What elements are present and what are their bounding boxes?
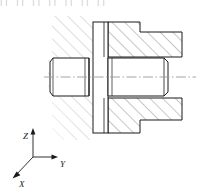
y-axis-arrowhead [52,155,59,160]
plate-body [93,22,108,133]
sectional-drawing: Z Y X [0,0,200,192]
right-housing-upper-hatch [108,22,182,57]
x-axis-arrowhead [13,172,21,179]
z-axis-label: Z [23,131,29,141]
left-housing-lower-hatch [52,96,93,140]
drawing-page: || || || || || || || [0,0,200,192]
vertical-plate [93,22,108,133]
right-housing-lower-hatch [108,98,182,133]
x-axis-label: X [18,179,25,189]
left-housing-upper-hatch [52,16,93,59]
x-axis-line [16,157,33,175]
z-axis-arrowhead [31,128,36,135]
y-axis-label: Y [60,159,66,169]
